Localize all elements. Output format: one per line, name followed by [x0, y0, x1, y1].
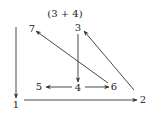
edge-6-to-7	[36, 31, 108, 83]
nodes-group: 1234567	[13, 22, 146, 110]
edge-2-to-3	[84, 31, 134, 90]
node-4: 4	[75, 82, 81, 93]
node-7: 7	[29, 23, 35, 34]
node-1: 1	[13, 99, 19, 110]
node-2: 2	[140, 94, 146, 105]
node-3: 3	[75, 22, 81, 33]
diagram-title: (3 + 4)	[47, 8, 82, 19]
node-5: 5	[36, 81, 42, 92]
node-6: 6	[111, 81, 117, 92]
graph-diagram: (3 + 4) 1234567	[0, 0, 159, 119]
